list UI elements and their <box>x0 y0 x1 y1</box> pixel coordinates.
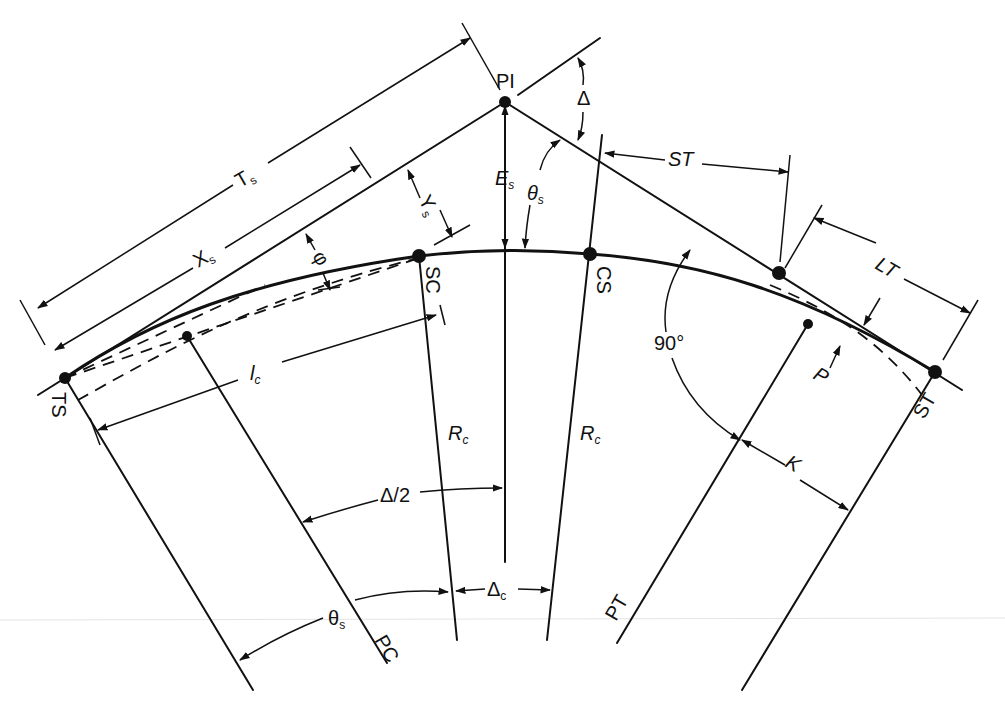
point-pc <box>182 331 192 341</box>
label-long-tangent: LT <box>872 252 903 283</box>
label-ts-tangent: Ts <box>231 163 259 194</box>
long-chord-dashed <box>65 258 419 378</box>
radial-line-st <box>742 372 935 690</box>
radial-line-pt <box>617 324 808 643</box>
dimension-ts <box>20 23 500 345</box>
label-theta-s-bottom: θs <box>328 607 345 632</box>
label-short-tangent: ST <box>668 148 695 170</box>
label-phi: φ <box>309 247 335 269</box>
label-es: Es <box>495 167 514 192</box>
label-pc: PC <box>371 631 404 666</box>
label-lc: lc <box>250 362 260 387</box>
label-right-angle: 90° <box>654 332 684 354</box>
label-ys: Ys <box>412 191 443 220</box>
dimension-lc <box>90 305 445 445</box>
dimension-ys <box>408 170 470 245</box>
offset-circular-curve-right <box>770 285 922 395</box>
label-xs: Xs <box>189 243 218 274</box>
spiral-chord-dashed <box>65 285 265 378</box>
spiral-curve-diagram: PI TS SC CS ST PC PT Ts Xs Ys φ Es θs Δ … <box>0 0 1005 702</box>
label-delta: Δ <box>577 87 590 109</box>
dimension-short-tangent <box>605 153 790 262</box>
label-delta-half: Δ/2 <box>380 484 410 506</box>
label-pi: PI <box>496 70 515 92</box>
label-sc: SC <box>422 266 444 294</box>
point-pt <box>803 319 813 329</box>
label-k: K <box>782 450 806 477</box>
label-theta-s-top: θs <box>527 182 544 207</box>
radial-line-cs <box>547 135 602 640</box>
scan-artifact-line <box>0 618 1005 620</box>
point-sc <box>412 249 426 263</box>
label-rc-left: Rc <box>448 422 468 447</box>
point-long-short-tangent <box>772 266 786 280</box>
radial-line-pc <box>187 336 387 663</box>
point-st <box>928 365 942 379</box>
label-p: P <box>810 362 833 388</box>
radial-line-sc <box>419 256 457 640</box>
label-ts: TS <box>48 392 70 418</box>
label-st-point: ST <box>908 389 940 422</box>
spiral-curve-path <box>65 250 935 378</box>
label-rc-right: Rc <box>580 422 600 447</box>
offset-circular-curve-left <box>78 258 419 400</box>
dimension-p <box>830 346 840 368</box>
label-cs: CS <box>593 266 615 294</box>
point-cs <box>583 247 597 261</box>
dimension-long-tangent <box>785 205 978 360</box>
point-ts <box>59 372 71 384</box>
label-delta-c: Δc <box>487 578 506 603</box>
